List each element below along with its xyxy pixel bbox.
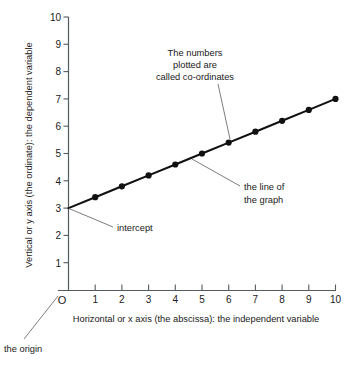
coordinates-annotation-line1: The numbers [168, 48, 223, 58]
y-axis-ticks [64, 17, 69, 263]
y-axis-title: Vertical or y axis (the ordinate): the d… [24, 42, 34, 267]
coordinates-annotation-line2: plotted are [173, 60, 217, 70]
x-axis-title: Horizontal or x axis (the abscissa): the… [73, 314, 320, 324]
x-tick-label: 7 [253, 294, 259, 305]
x-tick-label: 1 [92, 294, 98, 305]
data-point [306, 107, 312, 113]
origin-annotation: the origin [4, 344, 42, 354]
origin-leader-line [24, 296, 58, 339]
y-tick-label: 1 [55, 258, 61, 269]
axes-group [58, 17, 336, 291]
data-point [119, 183, 125, 189]
line-of-graph-annotation-line1: the line of [244, 182, 285, 192]
x-axis-ticks [95, 285, 335, 291]
x-tick-label: 6 [226, 294, 232, 305]
intercept-annotation: intercept [117, 223, 153, 233]
chart-plot-area: 10 9 8 7 6 5 4 3 2 1 1 2 3 [0, 0, 354, 369]
y-tick-label: 10 [50, 12, 62, 23]
data-point [279, 118, 285, 124]
data-point [146, 172, 152, 178]
x-axis-tick-labels: 1 2 3 4 5 6 7 8 9 10 [92, 294, 341, 305]
data-point [92, 194, 98, 200]
data-point [252, 129, 258, 135]
y-axis-tick-labels: 10 9 8 7 6 5 4 3 2 1 [50, 12, 62, 269]
data-point [172, 161, 178, 167]
x-tick-label: 2 [119, 294, 125, 305]
chart-figure: 10 9 8 7 6 5 4 3 2 1 1 2 3 [0, 0, 354, 369]
coordinates-annotation-line3: called co-ordinates [156, 72, 234, 82]
y-tick-label: 9 [55, 39, 61, 50]
y-tick-label: 4 [55, 176, 61, 187]
line-of-graph-annotation: the line of the graph [244, 182, 285, 205]
data-point [332, 96, 338, 102]
coordinates-leader-line [218, 84, 230, 139]
x-tick-label: 3 [146, 294, 152, 305]
line-of-graph-annotation-line2: the graph [244, 195, 283, 205]
x-tick-label: 8 [279, 294, 285, 305]
y-tick-label: 2 [55, 230, 61, 241]
y-tick-label: 3 [55, 203, 61, 214]
coordinates-annotation: The numbers plotted are called co-ordina… [156, 48, 234, 82]
origin-label: O [58, 294, 67, 306]
intercept-leader-line [69, 209, 113, 228]
line-of-graph-leader-line [192, 159, 240, 186]
y-tick-label: 8 [55, 66, 61, 77]
x-tick-label: 5 [199, 294, 205, 305]
x-tick-label: 10 [330, 294, 342, 305]
x-tick-label: 4 [173, 294, 179, 305]
y-tick-label: 5 [55, 148, 61, 159]
y-tick-label: 6 [55, 121, 61, 132]
x-tick-label: 9 [306, 294, 312, 305]
y-tick-label: 7 [55, 94, 61, 105]
data-point [199, 150, 205, 156]
data-point [226, 140, 232, 146]
